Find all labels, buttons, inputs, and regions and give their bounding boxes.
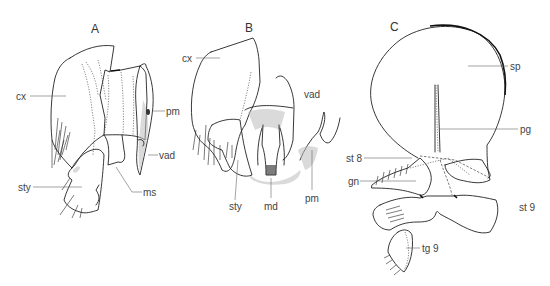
panel-b: B cx vad sty md bbox=[182, 21, 340, 212]
st9-plate bbox=[373, 195, 498, 233]
panel-c-label: C bbox=[390, 20, 399, 34]
label-sp: sp bbox=[510, 61, 521, 72]
label-md-b: md bbox=[264, 201, 278, 212]
ms-lobe-a bbox=[104, 135, 125, 165]
label-pm-b: pm bbox=[305, 193, 319, 204]
st8-right-lobe bbox=[445, 159, 490, 183]
panel-a-label: A bbox=[91, 22, 99, 36]
label-cx-a: cx bbox=[16, 91, 26, 102]
panel-c: C sp bbox=[346, 20, 536, 275]
coxa-outline-a bbox=[51, 46, 114, 169]
label-cx-b: cx bbox=[182, 53, 192, 64]
panel-a: A bbox=[16, 22, 180, 218]
label-st8: st 8 bbox=[346, 153, 363, 164]
label-tg9: tg 9 bbox=[422, 243, 439, 254]
label-sty-b: sty bbox=[229, 201, 242, 212]
label-pg: pg bbox=[520, 124, 531, 135]
label-vad-a: vad bbox=[159, 150, 175, 161]
label-pm-a: pm bbox=[166, 106, 180, 117]
spermatheca-sac bbox=[371, 26, 505, 178]
panel-b-label: B bbox=[245, 21, 253, 35]
anatomical-figure: A bbox=[0, 0, 550, 286]
label-vad-b: vad bbox=[304, 89, 320, 100]
label-ms-a: ms bbox=[143, 187, 156, 198]
label-sty-a: sty bbox=[18, 182, 31, 193]
st8-left-lobe bbox=[372, 158, 431, 195]
label-gn: gn bbox=[348, 176, 359, 187]
stylus-a bbox=[64, 149, 104, 213]
label-st9: st 9 bbox=[519, 202, 536, 213]
stylus-b bbox=[208, 119, 252, 176]
